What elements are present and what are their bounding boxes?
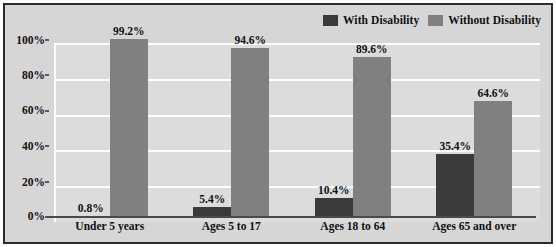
bar-pair: 5.4% 94.6%: [171, 38, 293, 217]
bar-group-ages-18-to-64: 10.4% 89.6%: [292, 38, 414, 217]
legend-label-without-disability: Without Disability: [448, 14, 541, 26]
bar-pair: 35.4% 64.6%: [414, 38, 536, 217]
y-tick-label-20: 20%: [22, 176, 45, 188]
bar-value-with-disability: 0.8%: [78, 202, 104, 214]
bar-groups: 0.8% 99.2% 5.4% 94.6% 10.4%: [49, 38, 535, 217]
bar-without-disability[interactable]: 99.2%: [110, 39, 148, 217]
bar-without-disability[interactable]: 89.6%: [353, 57, 391, 217]
bar-without-disability[interactable]: 64.6%: [474, 101, 512, 217]
bar-value-without-disability: 89.6%: [356, 43, 388, 55]
legend-entry-without-disability[interactable]: Without Disability: [428, 14, 541, 26]
bar-value-with-disability: 10.4%: [318, 184, 350, 196]
y-tick-label-80: 80%: [22, 69, 45, 81]
bar-group-under-5-years: 0.8% 99.2%: [49, 38, 171, 217]
bar-value-without-disability: 94.6%: [234, 34, 266, 46]
bar-value-with-disability: 5.4%: [199, 193, 225, 205]
x-label-under-5-years: Under 5 years: [49, 220, 171, 232]
y-tick-label-40: 40%: [22, 140, 45, 152]
chart-screenshot: With Disability Without Disability 100% …: [0, 0, 556, 247]
y-tick-label-0: 0%: [28, 210, 45, 222]
bar-pair: 10.4% 89.6%: [292, 38, 414, 217]
x-axis-labels: Under 5 years Ages 5 to 17 Ages 18 to 64…: [49, 220, 535, 232]
x-label-ages-5-to-17: Ages 5 to 17: [171, 220, 293, 232]
legend-entry-with-disability[interactable]: With Disability: [323, 14, 419, 26]
bar-with-disability[interactable]: 10.4%: [315, 198, 353, 217]
y-tick-label-100: 100%: [16, 34, 45, 46]
chart-legend: With Disability Without Disability: [323, 14, 541, 26]
y-axis: 100% 80% 60% 40% 20% 0%: [0, 0, 45, 247]
x-axis-baseline: [47, 216, 536, 218]
bar-value-without-disability: 64.6%: [477, 87, 509, 99]
legend-label-with-disability: With Disability: [343, 14, 419, 26]
x-label-ages-65-and-over: Ages 65 and over: [414, 220, 536, 232]
bar-with-disability[interactable]: 35.4%: [436, 154, 474, 217]
y-tick-label-60: 60%: [22, 104, 45, 116]
legend-swatch-with-disability: [323, 15, 338, 26]
legend-swatch-without-disability: [428, 15, 443, 26]
bar-value-with-disability: 35.4%: [439, 140, 471, 152]
bar-without-disability[interactable]: 94.6%: [231, 48, 269, 217]
bar-value-without-disability: 99.2%: [113, 25, 145, 37]
bar-pair: 0.8% 99.2%: [49, 38, 171, 217]
x-label-ages-18-to-64: Ages 18 to 64: [292, 220, 414, 232]
bar-group-ages-65-and-over: 35.4% 64.6%: [414, 38, 536, 217]
bar-group-ages-5-to-17: 5.4% 94.6%: [171, 38, 293, 217]
